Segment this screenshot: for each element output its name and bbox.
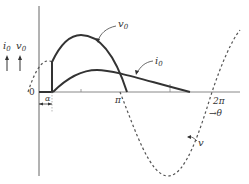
i0-output-current-curve (53, 70, 190, 92)
i0-callout-leader (137, 61, 153, 73)
pi-label: π (114, 95, 122, 105)
v-curve-label: v (198, 137, 204, 148)
v0-axis-label: v0 (16, 40, 27, 53)
i0-curve-label: i0 (155, 55, 163, 68)
i0-axis-label: i0 (3, 40, 11, 53)
i0-arrowhead-icon (5, 55, 9, 60)
origin-label: 0 (29, 87, 35, 97)
v0-output-voltage-curve (39, 35, 127, 92)
two-pi-label: 2π (212, 96, 226, 106)
alpha-label: α (45, 94, 51, 103)
v0-curve-label: v0 (118, 18, 129, 31)
alpha-left-arrow-icon (39, 103, 43, 106)
v0-arrowhead-icon (18, 55, 22, 60)
v0-callout-leader (98, 26, 116, 41)
v-callout-arrowhead-icon (187, 135, 191, 139)
waveform-diagram: i0 v0 0 α π 2π →θ v0 i0 v (0, 0, 249, 184)
theta-axis-label: →θ (209, 108, 223, 118)
